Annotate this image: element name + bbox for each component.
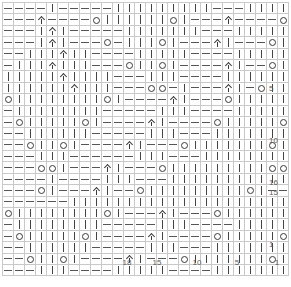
stitch-symbol <box>69 83 79 93</box>
stitch-symbol <box>135 174 145 184</box>
stitch-knit <box>25 71 36 82</box>
stitch-knit <box>168 162 179 173</box>
stitch-knit <box>212 173 223 184</box>
stitch-symbol <box>267 197 277 207</box>
stitch-knit <box>278 208 289 219</box>
stitch-knit <box>267 105 278 116</box>
stitch-knit <box>146 242 157 253</box>
stitch-symbol <box>102 71 112 81</box>
stitch-symbol <box>234 49 244 59</box>
stitch-symbol <box>80 185 90 195</box>
stitch-purl <box>212 3 223 14</box>
stitch-purl <box>256 14 267 25</box>
stitch-symbol <box>212 83 222 93</box>
stitch-purl <box>69 14 80 25</box>
stitch-knit <box>124 37 135 48</box>
stitch-knit <box>190 25 201 36</box>
stitch-knit <box>47 230 58 241</box>
stitch-symbol <box>69 219 79 229</box>
stitch-symbol <box>179 219 189 229</box>
stitch-knit <box>201 185 212 196</box>
stitch-symbol <box>69 231 79 241</box>
stitch-symbol <box>14 49 24 59</box>
stitch-knit <box>14 94 25 105</box>
stitch-symbol <box>124 151 134 161</box>
stitch-purl <box>91 128 102 139</box>
stitch-knit <box>80 128 91 139</box>
stitch-symbol <box>146 83 156 93</box>
stitch-symbol <box>36 242 46 252</box>
stitch-knit <box>179 185 190 196</box>
stitch-purl <box>113 82 124 93</box>
stitch-purl <box>124 94 135 105</box>
stitch-symbol <box>234 231 244 241</box>
stitch-symbol <box>278 117 288 127</box>
stitch-purl <box>3 37 14 48</box>
stitch-knit <box>58 82 69 93</box>
stitch-symbol <box>124 128 134 138</box>
stitch-symbol <box>245 140 255 150</box>
stitch-symbol <box>234 71 244 81</box>
stitch-symbol <box>146 94 156 104</box>
stitch-symbol <box>47 106 57 116</box>
stitch-symbol <box>157 37 167 47</box>
stitch-purl <box>14 14 25 25</box>
stitch-knit <box>146 59 157 70</box>
stitch-knit <box>168 173 179 184</box>
stitch-centered-double-decrease <box>102 162 113 173</box>
stitch-symbol <box>3 151 13 161</box>
stitch-symbol <box>234 37 244 47</box>
stitch-centered-double-decrease <box>91 185 102 196</box>
stitch-symbol <box>113 242 123 252</box>
stitch-symbol <box>58 106 68 116</box>
stitch-yarn-over <box>36 162 47 173</box>
stitch-symbol <box>179 140 189 150</box>
stitch-symbol <box>25 106 35 116</box>
stitch-symbol <box>80 208 90 218</box>
stitch-symbol <box>179 208 189 218</box>
stitch-knit <box>234 82 245 93</box>
stitch-knit <box>146 71 157 82</box>
stitch-knit <box>168 242 179 253</box>
stitch-symbol <box>168 151 178 161</box>
stitch-symbol <box>80 151 90 161</box>
stitch-symbol <box>190 60 200 70</box>
stitch-purl <box>91 37 102 48</box>
stitch-symbol <box>14 94 24 104</box>
stitch-purl <box>267 14 278 25</box>
stitch-symbol <box>58 219 68 229</box>
stitch-symbol <box>234 162 244 172</box>
stitch-symbol <box>179 106 189 116</box>
stitch-symbol <box>223 106 233 116</box>
stitch-purl <box>14 128 25 139</box>
stitch-symbol <box>36 219 46 229</box>
stitch-symbol <box>223 37 233 47</box>
stitch-symbol <box>135 140 145 150</box>
stitch-symbol <box>168 231 178 241</box>
stitch-knit <box>168 196 179 207</box>
stitch-symbol <box>135 49 145 59</box>
stitch-symbol <box>91 60 101 70</box>
stitch-knit <box>157 105 168 116</box>
stitch-symbol <box>69 117 79 127</box>
stitch-symbol <box>69 185 79 195</box>
stitch-symbol <box>25 231 35 241</box>
chart-row <box>3 14 289 25</box>
stitch-knit <box>278 196 289 207</box>
stitch-symbol <box>212 231 222 241</box>
stitch-knit <box>80 59 91 70</box>
stitch-symbol <box>102 208 112 218</box>
stitch-knit <box>278 151 289 162</box>
stitch-yarn-over <box>278 162 289 173</box>
chart-row <box>3 139 289 150</box>
stitch-knit <box>256 48 267 59</box>
stitch-symbol <box>278 106 288 116</box>
stitch-knit <box>47 105 58 116</box>
stitch-symbol <box>124 26 134 36</box>
stitch-symbol <box>124 219 134 229</box>
stitch-symbol <box>91 231 101 241</box>
stitch-symbol <box>267 94 277 104</box>
stitch-symbol <box>201 106 211 116</box>
stitch-symbol <box>146 197 156 207</box>
stitch-knit <box>14 82 25 93</box>
